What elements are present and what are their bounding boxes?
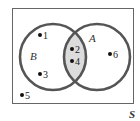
venn-diagram: B A 1 2 3 4 5 6 S	[0, 0, 140, 121]
set-b-label: B	[30, 50, 37, 62]
set-a-label: A	[88, 32, 96, 44]
element-label-4: 4	[75, 56, 80, 67]
element-label-1: 1	[43, 30, 48, 41]
element-label-2: 2	[75, 44, 80, 55]
element-dot-1	[38, 33, 42, 37]
element-dot-5	[20, 93, 24, 97]
element-dot-2	[70, 47, 74, 51]
element-label-5: 5	[25, 90, 30, 101]
element-label-3: 3	[43, 69, 48, 80]
element-dot-3	[38, 72, 42, 76]
universe-label: S	[129, 108, 135, 120]
element-dot-6	[108, 52, 112, 56]
element-label-6: 6	[113, 49, 118, 60]
element-dot-4	[70, 59, 74, 63]
